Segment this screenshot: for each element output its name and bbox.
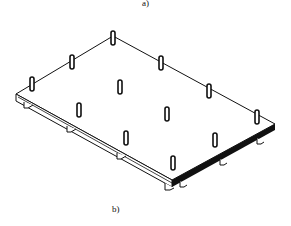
slab-top-face: [16, 36, 275, 180]
slab-isometric-drawing: [0, 0, 291, 226]
